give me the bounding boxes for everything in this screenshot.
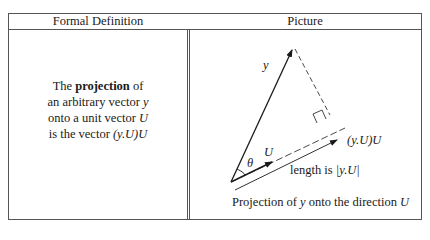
right-angle-marker xyxy=(313,110,326,123)
label-projection-vector: (y.U)U xyxy=(347,133,381,148)
label-y: y xyxy=(263,58,269,73)
label-theta: θ xyxy=(247,156,253,171)
label-U: U xyxy=(264,145,273,160)
picture-caption: Projection of y onto the direction U xyxy=(232,195,409,210)
vector-y-arrow xyxy=(231,50,292,182)
label-length: length is |y.U| xyxy=(290,163,360,178)
perpendicular-dashed-line xyxy=(295,49,330,115)
theta-angle-arc xyxy=(237,169,245,175)
